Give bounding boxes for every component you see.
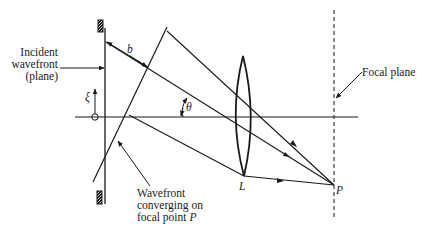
incident-line2: wavefront (6, 58, 58, 70)
incident-line3: (plane) (6, 70, 58, 82)
aperture-stop-bottom (97, 191, 102, 204)
lens (236, 56, 251, 176)
wavefront-line3: focal point (137, 211, 189, 223)
ray-middle-arrowhead (283, 152, 290, 157)
ray-bottom-in (129, 115, 244, 176)
wavefront-line2: converging on (137, 199, 203, 211)
wavefront-line3-symbol: P (189, 211, 196, 223)
incident-wavefront-label: Incident wavefront (plane) (6, 46, 58, 82)
lens-label: L (239, 180, 245, 192)
wavefront-line1: Wavefront (137, 187, 203, 199)
aperture-stop-top (98, 20, 103, 32)
ray-bottom-arrowhead (277, 178, 284, 183)
focal-point-label: P (336, 184, 343, 196)
theta-label: θ (186, 101, 192, 113)
ray-bottom-out (244, 176, 334, 185)
xi-label: ξ (85, 91, 90, 103)
incident-line1: Incident (6, 46, 58, 58)
optics-diagram (0, 0, 425, 229)
wavefront-label-arrow (118, 141, 150, 186)
focal-plane-label-arrow (336, 72, 362, 98)
b-label: b (127, 43, 133, 55)
b-dimension-arrow-2 (130, 56, 147, 67)
focal-plane-label: Focal plane (362, 66, 415, 78)
converging-wavefront-label: Wavefront converging on focal point P (137, 187, 203, 223)
